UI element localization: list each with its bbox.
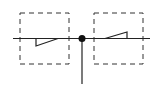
right-triangle-load bbox=[105, 32, 127, 39]
diagram-canvas bbox=[0, 0, 158, 91]
left-triangle-load bbox=[36, 39, 58, 47]
pivot-node bbox=[79, 35, 86, 42]
